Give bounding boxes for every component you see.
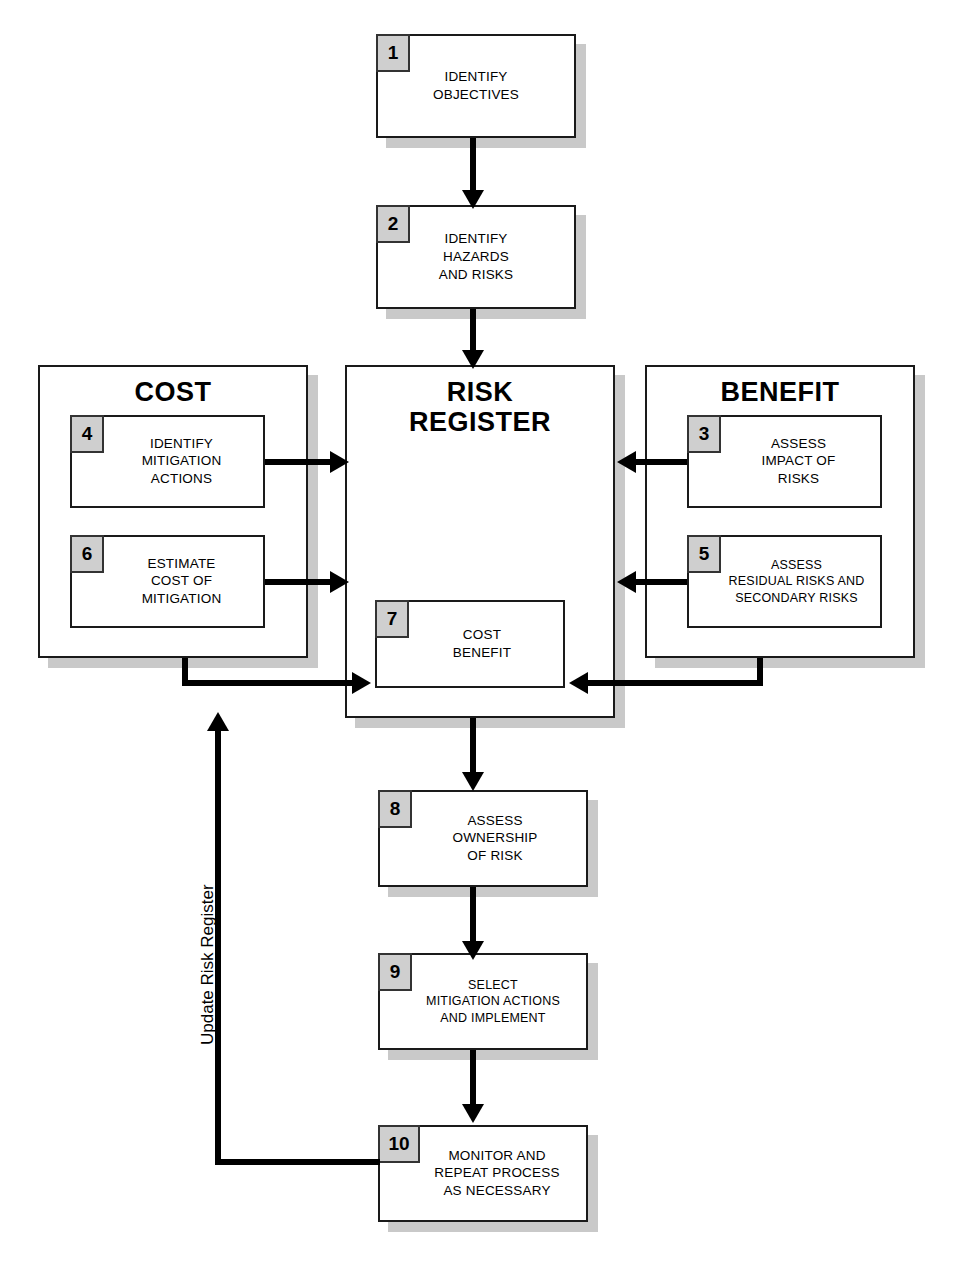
connector-benefit-to-cost-benefit-horizontal [588,680,763,686]
arrowhead-feedback-to-risk-register [207,712,229,731]
node-1-label: IDENTIFY OBJECTIVES [378,68,574,104]
arrowhead-benefit-to-cost-benefit [569,672,588,694]
arrowhead-cost-to-cost-benefit [352,672,371,694]
connector-3-to-risk-register [636,459,687,465]
node-2-number: 2 [376,205,410,243]
connector-6-to-risk-register [265,579,337,585]
arrowhead-5-to-risk-register [617,571,636,593]
arrowhead-1-to-2 [462,190,484,209]
arrowhead-3-to-risk-register [617,451,636,473]
node-6[interactable]: 6 ESTIMATE COST OF MITIGATION [70,535,265,628]
node-6-number: 6 [70,535,104,573]
node-4-number: 4 [70,415,104,453]
node-5-number: 5 [687,535,721,573]
group-risk-register-title: RISK REGISTER [347,377,613,437]
arrowhead-9-to-10 [462,1104,484,1123]
connector-feedback-horizontal [215,1159,380,1165]
node-2[interactable]: 2 IDENTIFY HAZARDS AND RISKS [376,205,576,309]
feedback-label: Update Risk Register [198,884,218,1045]
group-benefit-title: BENEFIT [647,377,913,407]
arrowhead-8-to-9 [462,941,484,960]
node-7-number: 7 [375,600,409,638]
node-9-number: 9 [378,953,412,991]
node-8[interactable]: 8 ASSESS OWNERSHIP OF RISK [378,790,588,887]
node-1[interactable]: 1 IDENTIFY OBJECTIVES [376,34,576,138]
connector-risk-register-to-8 [470,718,476,778]
node-1-number: 1 [376,34,410,72]
node-4[interactable]: 4 IDENTIFY MITIGATION ACTIONS [70,415,265,508]
node-9[interactable]: 9 SELECT MITIGATION ACTIONS AND IMPLEMEN… [378,953,588,1050]
connector-5-to-risk-register [636,579,687,585]
connector-9-to-10 [470,1050,476,1112]
node-10[interactable]: 10 MONITOR AND REPEAT PROCESS AS NECESSA… [378,1125,588,1222]
arrowhead-risk-register-to-8 [462,772,484,791]
flowchart-canvas: 1 IDENTIFY OBJECTIVES 2 IDENTIFY HAZARDS… [0,0,954,1281]
arrowhead-2-to-risk-register [462,350,484,369]
node-10-number: 10 [378,1125,420,1163]
arrowhead-6-to-risk-register [330,571,349,593]
connector-4-to-risk-register [265,459,337,465]
group-cost-title: COST [40,377,306,407]
node-3[interactable]: 3 ASSESS IMPACT OF RISKS [687,415,882,508]
connector-cost-to-cost-benefit-horizontal [182,680,357,686]
node-5[interactable]: 5 ASSESS RESIDUAL RISKS AND SECONDARY RI… [687,535,882,628]
connector-1-to-2 [470,138,476,196]
connector-8-to-9 [470,887,476,949]
arrowhead-4-to-risk-register [330,451,349,473]
node-8-number: 8 [378,790,412,828]
node-7[interactable]: 7 COST BENEFIT [375,600,565,688]
node-3-number: 3 [687,415,721,453]
